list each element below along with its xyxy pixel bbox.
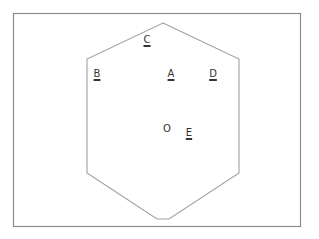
point-label-c: C — [144, 34, 151, 46]
hexagon-outline — [87, 23, 239, 219]
point-label-d: D — [209, 68, 217, 80]
point-label-a: A — [168, 68, 175, 80]
outer-frame — [14, 14, 301, 227]
diagram-canvas — [0, 0, 319, 239]
point-label-o: O — [163, 123, 171, 135]
point-label-b: B — [94, 68, 101, 80]
point-label-e: E — [186, 127, 192, 139]
